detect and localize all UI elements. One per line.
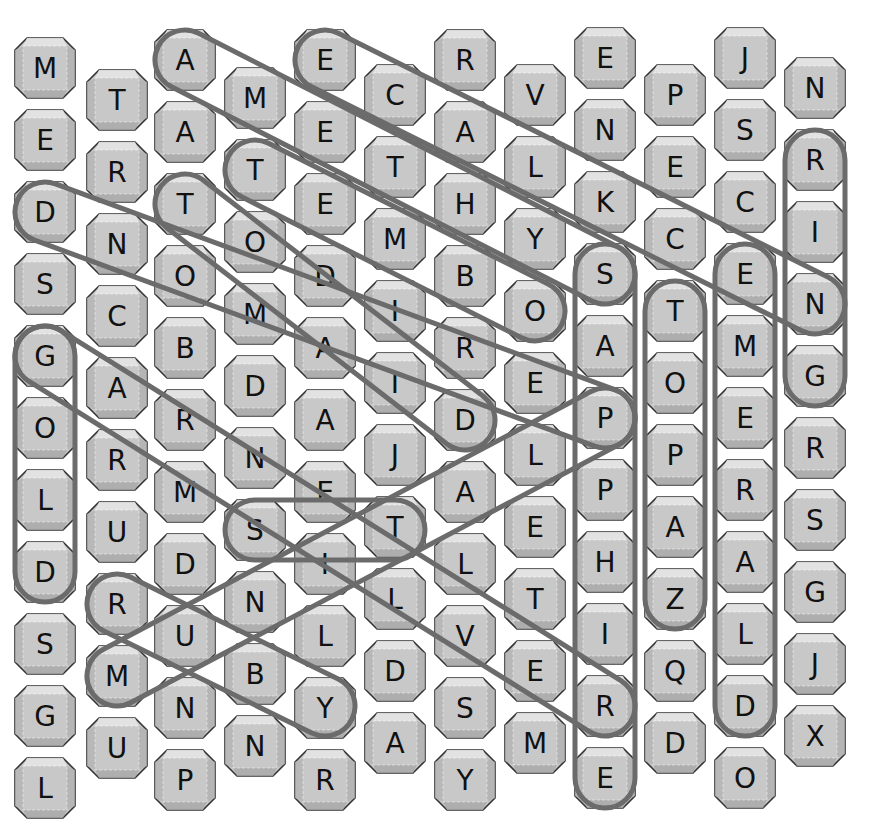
letter-tile[interactable]: R: [713, 458, 777, 522]
letter-tile[interactable]: N: [223, 714, 287, 778]
letter-tile[interactable]: E: [573, 746, 637, 810]
letter-tile[interactable]: N: [783, 272, 847, 336]
letter-tile[interactable]: E: [503, 351, 567, 415]
letter-tile[interactable]: L: [433, 532, 497, 596]
letter-tile[interactable]: O: [713, 746, 777, 810]
letter-tile[interactable]: A: [293, 316, 357, 380]
letter-tile[interactable]: S: [13, 252, 77, 316]
letter-tile[interactable]: A: [85, 356, 149, 420]
letter-tile[interactable]: E: [293, 100, 357, 164]
letter-tile[interactable]: Z: [643, 567, 707, 631]
letter-tile[interactable]: A: [153, 100, 217, 164]
letter-tile[interactable]: R: [85, 428, 149, 492]
letter-tile[interactable]: D: [13, 180, 77, 244]
letter-tile[interactable]: Q: [643, 639, 707, 703]
letter-tile[interactable]: R: [85, 140, 149, 204]
letter-tile[interactable]: U: [85, 500, 149, 564]
letter-tile[interactable]: E: [293, 172, 357, 236]
letter-tile[interactable]: B: [153, 316, 217, 380]
letter-tile[interactable]: R: [783, 416, 847, 480]
letter-tile[interactable]: K: [573, 170, 637, 234]
letter-tile[interactable]: O: [503, 279, 567, 343]
letter-tile[interactable]: O: [643, 351, 707, 415]
letter-tile[interactable]: S: [223, 498, 287, 562]
letter-tile[interactable]: R: [573, 674, 637, 738]
letter-tile[interactable]: M: [153, 460, 217, 524]
letter-tile[interactable]: G: [783, 344, 847, 408]
letter-tile[interactable]: P: [643, 63, 707, 127]
letter-tile[interactable]: L: [293, 604, 357, 668]
letter-tile[interactable]: Y: [503, 207, 567, 271]
letter-tile[interactable]: B: [433, 244, 497, 308]
letter-tile[interactable]: S: [783, 488, 847, 552]
letter-tile[interactable]: A: [713, 530, 777, 594]
letter-tile[interactable]: T: [363, 495, 427, 559]
letter-tile[interactable]: I: [293, 532, 357, 596]
letter-tile[interactable]: H: [433, 172, 497, 236]
letter-tile[interactable]: A: [363, 711, 427, 775]
letter-tile[interactable]: D: [293, 244, 357, 308]
letter-tile[interactable]: T: [503, 567, 567, 631]
letter-tile[interactable]: D: [363, 639, 427, 703]
letter-tile[interactable]: R: [85, 572, 149, 636]
letter-tile[interactable]: A: [433, 460, 497, 524]
letter-tile[interactable]: M: [85, 644, 149, 708]
letter-tile[interactable]: G: [13, 324, 77, 388]
letter-tile[interactable]: C: [363, 63, 427, 127]
letter-tile[interactable]: D: [13, 540, 77, 604]
letter-tile[interactable]: A: [153, 28, 217, 92]
letter-tile[interactable]: N: [85, 212, 149, 276]
letter-tile[interactable]: L: [13, 468, 77, 532]
letter-tile[interactable]: A: [293, 388, 357, 452]
letter-tile[interactable]: S: [713, 98, 777, 162]
letter-tile[interactable]: J: [713, 26, 777, 90]
letter-tile[interactable]: S: [433, 676, 497, 740]
letter-tile[interactable]: O: [223, 210, 287, 274]
letter-tile[interactable]: J: [363, 423, 427, 487]
letter-tile[interactable]: H: [573, 530, 637, 594]
letter-tile[interactable]: E: [713, 386, 777, 450]
letter-tile[interactable]: C: [713, 170, 777, 234]
letter-tile[interactable]: E: [643, 135, 707, 199]
letter-tile[interactable]: V: [433, 604, 497, 668]
letter-tile[interactable]: I: [573, 602, 637, 666]
letter-tile[interactable]: D: [223, 354, 287, 418]
letter-tile[interactable]: L: [363, 567, 427, 631]
letter-tile[interactable]: L: [13, 756, 77, 820]
letter-tile[interactable]: B: [223, 642, 287, 706]
letter-tile[interactable]: D: [643, 711, 707, 775]
letter-tile[interactable]: Y: [293, 676, 357, 740]
letter-tile[interactable]: O: [153, 244, 217, 308]
letter-tile[interactable]: T: [363, 135, 427, 199]
letter-tile[interactable]: P: [573, 458, 637, 522]
letter-tile[interactable]: N: [223, 426, 287, 490]
letter-tile[interactable]: E: [503, 495, 567, 559]
letter-tile[interactable]: P: [573, 386, 637, 450]
letter-tile[interactable]: I: [363, 351, 427, 415]
letter-tile[interactable]: M: [713, 314, 777, 378]
letter-tile[interactable]: D: [713, 674, 777, 738]
letter-tile[interactable]: C: [643, 207, 707, 271]
letter-tile[interactable]: A: [433, 100, 497, 164]
letter-tile[interactable]: A: [573, 314, 637, 378]
letter-tile[interactable]: E: [573, 26, 637, 90]
letter-tile[interactable]: S: [13, 612, 77, 676]
letter-tile[interactable]: N: [223, 570, 287, 634]
letter-tile[interactable]: T: [153, 172, 217, 236]
letter-tile[interactable]: I: [783, 200, 847, 264]
letter-tile[interactable]: N: [153, 676, 217, 740]
letter-tile[interactable]: M: [223, 282, 287, 346]
letter-tile[interactable]: O: [13, 396, 77, 460]
letter-tile[interactable]: E: [503, 639, 567, 703]
letter-tile[interactable]: L: [713, 602, 777, 666]
letter-tile[interactable]: P: [153, 748, 217, 812]
letter-tile[interactable]: S: [573, 242, 637, 306]
letter-tile[interactable]: V: [503, 63, 567, 127]
letter-tile[interactable]: U: [85, 716, 149, 780]
letter-tile[interactable]: L: [503, 135, 567, 199]
letter-tile[interactable]: R: [433, 316, 497, 380]
letter-tile[interactable]: E: [293, 28, 357, 92]
letter-tile[interactable]: M: [363, 207, 427, 271]
letter-tile[interactable]: J: [783, 632, 847, 696]
letter-tile[interactable]: D: [433, 388, 497, 452]
